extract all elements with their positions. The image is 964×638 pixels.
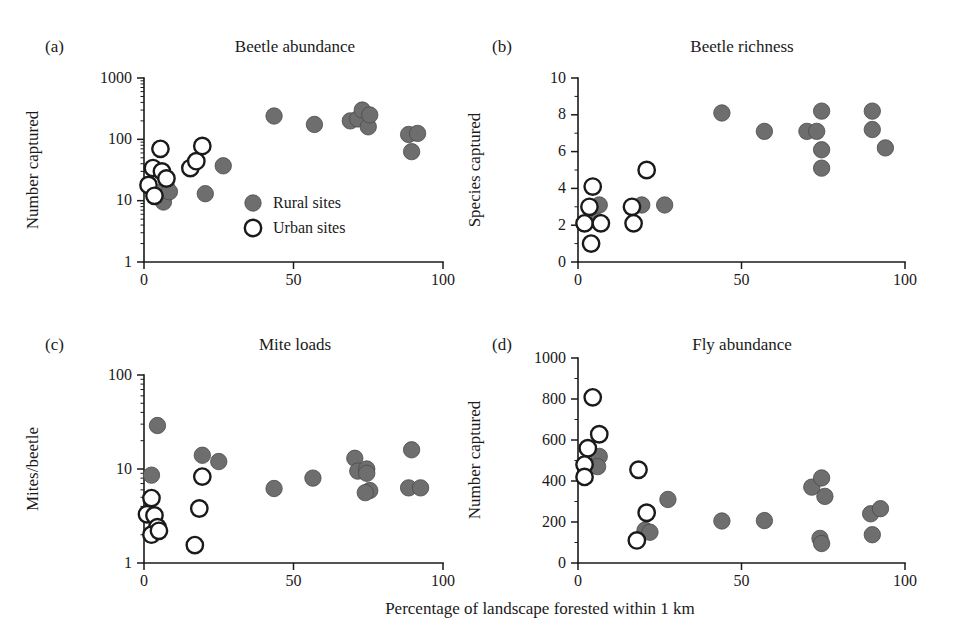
datapoint-c-rural-4 xyxy=(266,480,282,496)
datapoint-c-urban-5 xyxy=(151,523,167,539)
shared-x-axis-label: Percentage of landscape forested within … xyxy=(385,599,695,618)
y-ticklabel-a-2: 100 xyxy=(108,130,132,147)
y-axis-title-a: Number captured xyxy=(23,110,42,229)
datapoint-d-rural-9 xyxy=(817,488,833,504)
y-ticklabel-a-0: 1 xyxy=(124,253,132,270)
legend-marker-rural-sites xyxy=(245,195,261,211)
legend-label-rural-sites: Rural sites xyxy=(273,194,341,211)
datapoint-d-urban-4 xyxy=(576,469,592,485)
y-ticklabel-b-2: 4 xyxy=(558,179,566,196)
y-ticklabel-c-2: 100 xyxy=(108,366,132,383)
datapoint-a-rural-4 xyxy=(197,185,213,201)
datapoint-b-urban-0 xyxy=(585,178,601,194)
x-ticklabel-c-1: 50 xyxy=(286,572,302,589)
y-ticklabel-d-1: 200 xyxy=(542,513,566,530)
x-ticklabel-c-2: 100 xyxy=(431,572,455,589)
datapoint-c-rural-9 xyxy=(359,465,375,481)
panel-title-a: Beetle abundance xyxy=(235,37,355,56)
panel-title-b: Beetle richness xyxy=(690,37,793,56)
datapoint-d-rural-4 xyxy=(660,491,676,507)
y-ticklabel-a-3: 1000 xyxy=(100,69,132,86)
datapoint-a-rural-14 xyxy=(409,125,425,141)
datapoint-a-urban-7 xyxy=(188,153,204,169)
x-ticklabel-c-0: 0 xyxy=(140,572,148,589)
datapoint-b-rural-8 xyxy=(813,103,829,119)
x-ticklabel-a-1: 50 xyxy=(286,271,302,288)
datapoint-c-urban-7 xyxy=(191,500,207,516)
datapoint-d-urban-2 xyxy=(580,440,596,456)
y-ticklabel-b-5: 10 xyxy=(550,69,566,86)
panel-letter-b: (b) xyxy=(492,37,512,56)
x-ticklabel-d-1: 50 xyxy=(734,572,750,589)
datapoint-a-rural-7 xyxy=(306,116,322,132)
datapoint-a-rural-6 xyxy=(266,108,282,124)
y-ticklabel-b-3: 6 xyxy=(558,142,566,159)
datapoint-a-urban-8 xyxy=(194,138,210,154)
datapoint-b-rural-12 xyxy=(864,121,880,137)
y-ticklabel-b-4: 8 xyxy=(558,105,566,122)
panel-a: (a)Beetle abundance1101001000050100Numbe… xyxy=(23,37,455,288)
datapoint-a-urban-3 xyxy=(152,141,168,157)
datapoint-c-urban-0 xyxy=(143,490,159,506)
datapoint-c-urban-8 xyxy=(187,537,203,553)
datapoint-b-rural-4 xyxy=(714,105,730,121)
panel-letter-d: (d) xyxy=(492,335,512,354)
x-ticklabel-d-0: 0 xyxy=(574,572,582,589)
x-ticklabel-b-2: 100 xyxy=(893,271,917,288)
datapoint-d-rural-5 xyxy=(714,513,730,529)
x-ticklabel-d-2: 100 xyxy=(893,572,917,589)
y-ticklabel-d-3: 600 xyxy=(542,431,566,448)
y-ticklabel-d-5: 1000 xyxy=(534,349,566,366)
datapoint-d-urban-5 xyxy=(630,462,646,478)
x-ticklabel-b-0: 0 xyxy=(574,271,582,288)
legend-label-urban-sites: Urban sites xyxy=(273,219,345,236)
datapoint-b-rural-10 xyxy=(813,160,829,176)
y-ticklabel-b-0: 0 xyxy=(558,253,566,270)
y-axis-title-b: Species captured xyxy=(465,112,484,227)
panel-title-c: Mite loads xyxy=(259,335,331,354)
datapoint-a-rural-12 xyxy=(362,107,378,123)
datapoint-d-rural-6 xyxy=(756,512,772,528)
datapoint-b-rural-7 xyxy=(809,123,825,139)
datapoint-c-rural-2 xyxy=(194,447,210,463)
datapoint-d-urban-1 xyxy=(591,426,607,442)
datapoint-b-rural-9 xyxy=(813,142,829,158)
panel-c: (c)Mite loads110100050100Mites/beetle xyxy=(23,335,455,589)
datapoint-b-urban-1 xyxy=(581,199,597,215)
y-ticklabel-c-1: 10 xyxy=(116,460,132,477)
datapoint-d-urban-7 xyxy=(629,532,645,548)
datapoint-b-rural-5 xyxy=(756,123,772,139)
y-ticklabel-d-2: 400 xyxy=(542,472,566,489)
legend-marker-urban-sites xyxy=(245,220,261,236)
datapoint-b-rural-11 xyxy=(864,103,880,119)
datapoint-c-urban-6 xyxy=(194,468,210,484)
datapoint-b-rural-13 xyxy=(877,140,893,156)
x-ticklabel-a-2: 100 xyxy=(431,271,455,288)
panel-title-d: Fly abundance xyxy=(692,335,792,354)
y-ticklabel-c-0: 1 xyxy=(124,554,132,571)
datapoint-c-rural-0 xyxy=(149,417,165,433)
panel-b: (b)Beetle richness0246810050100Species c… xyxy=(465,37,917,288)
figure-four-panel-scatter: (a)Beetle abundance1101001000050100Numbe… xyxy=(0,0,964,638)
panel-letter-c: (c) xyxy=(45,335,64,354)
datapoint-d-urban-0 xyxy=(585,389,601,405)
datapoint-c-rural-3 xyxy=(211,453,227,469)
datapoint-a-urban-2 xyxy=(146,188,162,204)
datapoint-d-rural-13 xyxy=(872,500,888,516)
datapoint-d-rural-11 xyxy=(813,535,829,551)
y-ticklabel-d-4: 800 xyxy=(542,390,566,407)
datapoint-c-rural-14 xyxy=(412,480,428,496)
datapoint-a-rural-5 xyxy=(215,158,231,174)
series-c-rural-sites xyxy=(143,417,429,501)
panel-letter-a: (a) xyxy=(45,37,64,56)
datapoint-c-rural-1 xyxy=(143,467,159,483)
datapoint-b-urban-4 xyxy=(593,215,609,231)
datapoint-d-rural-8 xyxy=(813,470,829,486)
datapoint-d-urban-6 xyxy=(638,505,654,521)
datapoint-a-rural-15 xyxy=(403,143,419,159)
y-ticklabel-a-1: 10 xyxy=(116,191,132,208)
y-ticklabel-b-1: 2 xyxy=(558,216,566,233)
datapoint-b-urban-6 xyxy=(625,215,641,231)
datapoint-b-urban-3 xyxy=(583,235,599,251)
datapoint-b-urban-2 xyxy=(576,215,592,231)
